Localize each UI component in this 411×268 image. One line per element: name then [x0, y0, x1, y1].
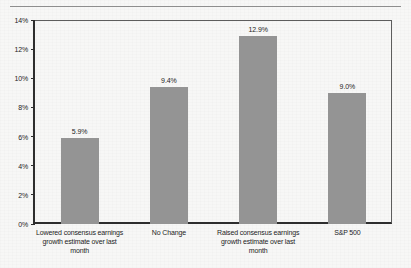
bar[interactable] [61, 138, 99, 224]
bar-group: 9.0% [328, 20, 366, 224]
plot-area: 0%2%4%6%8%10%12%14%5.9%9.4%12.9%9.0% [35, 20, 392, 224]
y-axis-tick-mark [31, 78, 35, 79]
y-axis-tick-mark [31, 49, 35, 50]
x-axis-category-label: Lowered consensus earnings growth estima… [35, 228, 124, 255]
y-axis-tick-mark [31, 194, 35, 195]
bar-value-label: 5.9% [72, 128, 88, 135]
y-axis-tick-label: 12% [15, 46, 28, 53]
y-axis-tick-mark [31, 107, 35, 108]
x-axis-category-label: S&P 500 [303, 228, 392, 237]
y-axis-tick-label: 4% [18, 162, 28, 169]
bar[interactable] [150, 87, 188, 224]
y-axis-tick-mark [31, 20, 35, 21]
bar-group: 9.4% [150, 20, 188, 224]
y-axis-tick-mark [31, 165, 35, 166]
bar[interactable] [328, 93, 366, 224]
y-axis-tick-label: 2% [18, 191, 28, 198]
y-axis-tick-label: 8% [18, 104, 28, 111]
bar-value-label: 12.9% [248, 26, 267, 33]
y-axis-tick-mark [31, 224, 35, 225]
y-axis-tick-label: 0% [18, 221, 28, 228]
bar-value-label: 9.4% [161, 77, 177, 84]
y-axis-tick-label: 10% [15, 75, 28, 82]
y-axis-tick-mark [31, 136, 35, 137]
bar-value-label: 9.0% [340, 83, 356, 90]
y-axis-tick-label: 6% [18, 133, 28, 140]
chart-page: 0%2%4%6%8%10%12%14%5.9%9.4%12.9%9.0% Low… [0, 0, 411, 268]
header-rule [10, 6, 401, 7]
bar[interactable] [239, 36, 277, 224]
bar-group: 5.9% [61, 20, 99, 224]
y-axis-tick-label: 14% [15, 17, 28, 24]
x-axis-category-label: No Change [124, 228, 213, 237]
bar-group: 12.9% [239, 20, 277, 224]
x-axis-category-label: Raised consensus earnings growth estimat… [214, 228, 303, 255]
